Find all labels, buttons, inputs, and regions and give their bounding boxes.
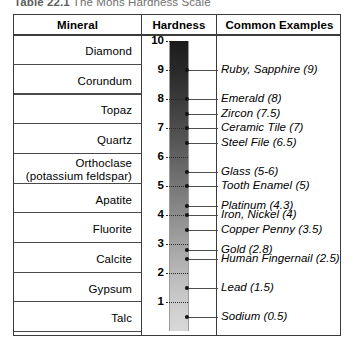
example-leader-line <box>187 70 218 71</box>
mineral-name-gypsum: Gypsum <box>14 283 132 296</box>
example-label: Emerald (8) <box>221 92 282 104</box>
mineral-name-apatite: Apatite <box>14 194 132 207</box>
mineral-name-corundum: Corundum <box>14 75 132 88</box>
column-header-examples: Common Examples <box>217 17 342 33</box>
example-label: Copper Penny (3.5) <box>221 223 322 235</box>
mineral-name-calcite: Calcite <box>14 253 132 266</box>
hardness-tick-leader <box>166 273 188 274</box>
example-label: Lead (1.5) <box>221 281 274 293</box>
example-leader-line <box>187 230 218 231</box>
hardness-tick-4: 4 <box>142 208 164 220</box>
hardness-tick-2: 2 <box>142 266 164 278</box>
example-leader-line <box>187 143 218 144</box>
column-header-mineral: Mineral <box>14 17 141 33</box>
example-leader-line <box>187 215 218 216</box>
hardness-tick-10: 10 <box>142 34 164 46</box>
mineral-name-topaz: Topaz <box>14 104 132 117</box>
mineral-name-quartz: Quartz <box>14 134 132 147</box>
mineral-row-divider <box>14 93 141 94</box>
caption-number: Table 22.1 <box>14 0 70 8</box>
mineral-name-diamond: Diamond <box>14 45 132 58</box>
hardness-tick-5: 5 <box>142 179 164 191</box>
hardness-tick-1: 1 <box>142 295 164 307</box>
example-leader-line <box>187 288 218 289</box>
example-leader-line <box>187 259 218 260</box>
hardness-tick-leader <box>166 302 188 303</box>
hardness-tick-leader <box>166 41 170 42</box>
example-label: Steel File (6.5) <box>221 136 297 148</box>
mineral-row-divider <box>14 301 141 302</box>
example-leader-line <box>187 99 218 100</box>
mineral-row-divider <box>14 242 141 243</box>
example-label: Tooth Enamel (5) <box>221 179 310 191</box>
example-label: Zircon (7.5) <box>221 107 280 119</box>
hardness-tick-leader <box>166 244 188 245</box>
mineral-name-talc: Talc <box>14 312 132 325</box>
hardness-tick-9: 9 <box>142 63 164 75</box>
hardness-tick-leader <box>166 157 188 158</box>
hardness-tick-3: 3 <box>142 237 164 249</box>
mineral-name-fluorite: Fluorite <box>14 223 132 236</box>
example-label: Ruby, Sapphire (9) <box>221 63 318 75</box>
example-leader-line <box>187 317 218 318</box>
example-label: Ceramic Tile (7) <box>221 121 304 133</box>
hardness-tick-7: 7 <box>142 121 164 133</box>
mohs-hardness-table: Mineral Hardness Common Examples Diamond… <box>13 14 341 336</box>
example-label: Glass (5-6) <box>221 165 278 177</box>
example-leader-line <box>187 206 218 207</box>
example-label: Human Fingernail (2.5) <box>221 252 340 264</box>
mineral-row-divider <box>14 331 141 332</box>
caption-title: The Mohs Hardness Scale <box>73 0 211 8</box>
example-label: Sodium (0.5) <box>221 310 287 322</box>
example-leader-line <box>187 186 218 187</box>
mineral-row-divider <box>14 64 141 65</box>
header-rule <box>14 34 340 36</box>
mineral-row-divider <box>14 272 141 273</box>
hardness-tick-6: 6 <box>142 150 164 162</box>
example-leader-line <box>187 172 218 173</box>
mineral-row-divider <box>14 212 141 213</box>
mineral-row-divider <box>14 183 141 184</box>
example-leader-line <box>187 128 218 129</box>
mineral-name-orthoclase: Orthoclase(potassium feldspar) <box>14 157 132 183</box>
mineral-name-subtitle: (potassium feldspar) <box>14 170 132 183</box>
table-caption: Table 22.1 The Mohs Hardness Scale <box>14 0 211 8</box>
example-leader-line <box>187 114 218 115</box>
column-header-hardness: Hardness <box>142 17 216 33</box>
example-leader-line <box>187 250 218 251</box>
hardness-tick-8: 8 <box>142 92 164 104</box>
mineral-row-divider <box>14 153 141 154</box>
example-label: Iron, Nickel (4) <box>221 208 297 220</box>
mineral-row-divider <box>14 123 141 124</box>
